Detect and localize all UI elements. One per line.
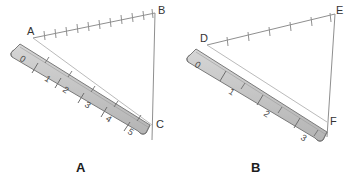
geometry-figure: 0 1 2 3 4 5 A B C xyxy=(0,0,356,186)
diagram-canvas: 0 1 2 3 4 5 A B C xyxy=(0,0,356,186)
vertex-label-b: B xyxy=(158,4,165,16)
segment-de-ticks xyxy=(227,13,331,46)
ruler-a-edge-highlight xyxy=(20,47,148,127)
ruler-b-number-1: 1 xyxy=(227,86,237,97)
panel-a-group: 0 1 2 3 4 5 A B C xyxy=(11,4,165,140)
panel-b-group: 0 1 2 3 D E F xyxy=(187,4,343,143)
ruler-b[interactable]: 0 1 2 3 xyxy=(187,49,327,143)
ruler-a-number-4: 4 xyxy=(104,113,114,124)
vertex-label-a: A xyxy=(27,25,35,37)
segment-de xyxy=(207,14,335,45)
ruler-a-number-5: 5 xyxy=(126,126,136,137)
panel-caption-b: B xyxy=(251,160,261,175)
vertex-label-e: E xyxy=(336,4,343,16)
panel-caption-a: A xyxy=(76,160,86,175)
ruler-b-body xyxy=(187,49,327,141)
ruler-b-number-3: 3 xyxy=(299,132,309,143)
vertex-label-c: C xyxy=(156,118,164,130)
ruler-a-number-3: 3 xyxy=(83,99,93,110)
vertex-label-f: F xyxy=(330,115,337,127)
vertex-label-d: D xyxy=(200,32,208,44)
ruler-a[interactable]: 0 1 2 3 4 5 xyxy=(11,44,150,137)
segment-bc xyxy=(152,13,155,140)
ruler-b-number-2: 2 xyxy=(262,108,272,119)
ruler-b-edge-highlight xyxy=(196,52,325,134)
ruler-a-body xyxy=(11,44,150,134)
segment-ab xyxy=(33,13,155,38)
segment-ac xyxy=(33,38,152,125)
